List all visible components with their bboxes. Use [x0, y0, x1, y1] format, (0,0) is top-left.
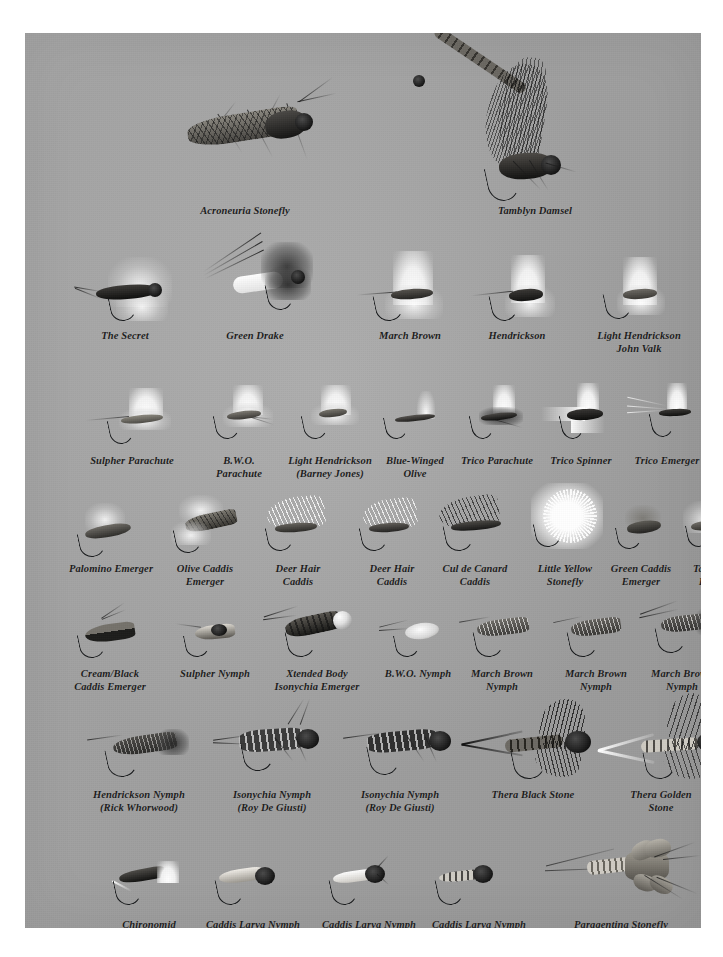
fly-image-paragentina-stonefly-nymph [545, 835, 701, 923]
fly-caption-trico-emerger: Trico Emerger [621, 455, 701, 468]
fly-image-caddis-larva-nymph-1 [207, 859, 299, 911]
fly-image-sulpher-parachute [85, 388, 181, 446]
fly-caption-sulpher-parachute: Sulpher Parachute [73, 455, 191, 468]
fly-image-light-hendrickson-john-valk [583, 255, 683, 329]
fly-image-cul-de-canard-caddis [431, 495, 523, 555]
fly-image-isonychia-nymph-1 [213, 705, 333, 783]
fly-image-bwo-parachute [197, 385, 283, 443]
fly-caption-deer-hair-caddis-1: Deer Hair Caddis [255, 563, 341, 588]
fly-image-light-hendrickson-barney-jones [283, 385, 371, 443]
fly-caption-hendrickson: Hendrickson [467, 330, 567, 343]
fly-caption-hendrickson-nymph-rick-whorwood: Hendrickson Nymph (Rick Whorwood) [65, 789, 213, 814]
fly-image-palomino-emerger [63, 501, 149, 557]
fly-image-deer-hair-caddis-2 [347, 497, 433, 555]
page-root: Acroneuria Stonefly Tamblyn Damsel [0, 0, 723, 957]
fly-image-the-secret [70, 255, 180, 325]
fly-caption-bwo-nymph: B.W.O. Nymph [371, 668, 465, 681]
fly-caption-march-brown-nymph-3: March Brown Nymph [633, 668, 701, 693]
fly-image-cream-black-caddis-emerger [65, 608, 155, 662]
fly-image-sulpher-nymph [171, 611, 247, 663]
fly-caption-isonychia-nymph-2: Isonychia Nymph (Roy De Giusti) [339, 789, 461, 814]
fly-image-caddis-larva-nymph-2 [323, 859, 411, 911]
fly-image-trico-emerger [625, 383, 701, 443]
fly-image-hendrickson [465, 255, 570, 329]
fly-image-thera-black-stone [461, 693, 601, 783]
fly-caption-the-secret: The Secret [75, 330, 175, 343]
fly-caption-cream-black-caddis-emerger: Cream/Black Caddis Emerger [53, 668, 167, 693]
fly-image-tamblyn-damsel [395, 55, 585, 205]
fly-plate-photo: Acroneuria Stonefly Tamblyn Damsel [25, 33, 701, 928]
fly-caption-chironomid-joe-penich: Chironomid (Joe Penich) [101, 919, 197, 928]
fly-caption-paragentina-stonefly-nymph: Paragentina Stonefly Nymph [541, 919, 701, 928]
fly-caption-olive-caddis-emerger: Olive Caddis Emerger [157, 563, 253, 588]
fly-caption-thera-black-stone: Thera Black Stone [465, 789, 601, 802]
fly-caption-palomino-emerger: Palomino Emerger [51, 563, 171, 576]
fly-image-deer-hair-caddis-1 [253, 495, 343, 555]
fly-caption-tan-caddis-emerger: Tan Caddis Emerger [675, 563, 701, 588]
fly-caption-march-brown-nymph-1: March Brown Nymph [453, 668, 551, 693]
fly-caption-xtended-body-isonychia-emerger: Xtended Body Isonychia Emerger [257, 668, 377, 693]
fly-image-acroneuria-stonefly [155, 71, 335, 199]
fly-caption-thera-golden-stone: Thera Golden Stone [601, 789, 701, 814]
fly-caption-caddis-larva-nymph-1: Caddis Larva Nymph [189, 919, 317, 928]
fly-caption-march-brown-nymph-2: March Brown Nymph [547, 668, 645, 693]
fly-image-caddis-larva-nymph-3 [429, 859, 517, 911]
fly-image-trico-parachute [453, 385, 537, 443]
fly-image-little-yellow-stonefly [521, 483, 613, 557]
fly-image-march-brown-nymph-1 [459, 609, 545, 663]
fly-image-blue-winged-olive [373, 389, 453, 441]
fly-image-bwo-nymph [377, 611, 453, 663]
fly-caption-green-drake: Green Drake [200, 330, 310, 343]
fly-image-green-caddis-emerger [607, 503, 681, 555]
fly-caption-light-hendrickson-john-valk: Light Hendrickson John Valk [575, 330, 701, 355]
fly-image-hendrickson-nymph-rick-whorwood [87, 723, 197, 783]
fly-image-trico-spinner [537, 383, 625, 443]
fly-caption-trico-spinner: Trico Spinner [533, 455, 629, 468]
fly-image-march-brown-nymph-2 [553, 609, 637, 663]
fly-image-xtended-body-isonychia-emerger [263, 603, 369, 663]
fly-caption-bwo-parachute: B.W.O. Parachute [193, 455, 285, 480]
fly-image-march-brown-nymph-3 [639, 601, 701, 663]
fly-caption-sulpher-nymph: Sulpher Nymph [165, 668, 265, 681]
fly-image-isonychia-nymph-2 [343, 709, 461, 783]
fly-image-olive-caddis-emerger [157, 495, 251, 557]
fly-image-march-brown [355, 251, 465, 329]
fly-caption-tamblyn-damsel: Tamblyn Damsel [455, 205, 615, 218]
fly-image-chironomid-joe-penich [103, 859, 195, 913]
fly-caption-cul-de-canard-caddis: Cul de Canard Caddis [425, 563, 525, 588]
fly-caption-caddis-larva-nymph-3: Caddis Larva Nymph [415, 919, 543, 928]
fly-caption-deer-hair-caddis-2: Deer Hair Caddis [349, 563, 435, 588]
fly-caption-green-caddis-emerger: Green Caddis Emerger [595, 563, 687, 588]
fly-caption-caddis-larva-nymph-2: Caddis Larva Nymph [305, 919, 433, 928]
fly-image-thera-golden-stone [597, 693, 701, 783]
fly-image-tan-caddis-emerger [681, 501, 701, 555]
fly-caption-acroneuria-stonefly: Acroneuria Stonefly [165, 205, 325, 218]
fly-caption-march-brown: March Brown [360, 330, 460, 343]
fly-image-green-drake [195, 238, 320, 328]
fly-caption-isonychia-nymph-1: Isonychia Nymph (Roy De Giusti) [211, 789, 333, 814]
